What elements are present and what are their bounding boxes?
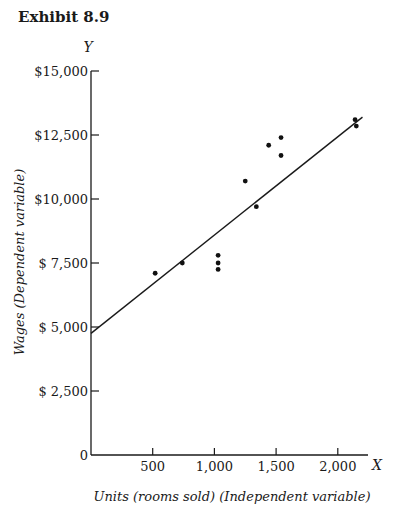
x-tick-label: 1,000 (196, 459, 233, 474)
data-point (279, 135, 284, 140)
data-points (153, 117, 359, 275)
x-axis-ticks: 5001,0001,5002,000 (140, 448, 356, 474)
data-point (354, 124, 359, 129)
x-tick-label: 1,500 (257, 459, 294, 474)
y-tick-label: $15,000 (34, 64, 88, 79)
y-tick-label: $ 5,000 (38, 320, 88, 335)
regression-line (91, 117, 362, 333)
data-point (180, 261, 185, 266)
data-point (216, 261, 221, 266)
data-point (216, 253, 221, 258)
y-axis-title: Wages (Dependent variable) (12, 169, 27, 356)
data-point (216, 267, 221, 272)
y-tick-label: 0 (80, 448, 88, 463)
data-point (153, 271, 158, 276)
x-axis-title: Units (rooms sold) (Independent variable… (94, 489, 371, 504)
x-tick-label: 500 (140, 459, 165, 474)
axes (91, 71, 368, 455)
y-tick-label: $ 2,500 (38, 384, 88, 399)
y-axis-ticks: 0$ 2,500$ 5,000$ 7,500$10,000$12,500$15,… (34, 64, 99, 463)
x-axis-letter: X (371, 457, 383, 473)
data-point (254, 204, 259, 209)
y-tick-label: $ 7,500 (38, 256, 88, 271)
scatter-chart: 0$ 2,500$ 5,000$ 7,500$10,000$12,500$15,… (0, 0, 400, 515)
regression-line-path (91, 117, 362, 333)
data-point (266, 143, 271, 148)
data-point (279, 153, 284, 158)
y-axis-letter: Y (83, 39, 94, 55)
y-tick-label: $10,000 (34, 192, 88, 207)
y-tick-label: $12,500 (34, 128, 88, 143)
data-point (353, 117, 358, 122)
data-point (243, 179, 248, 184)
x-tick-label: 2,000 (319, 459, 356, 474)
